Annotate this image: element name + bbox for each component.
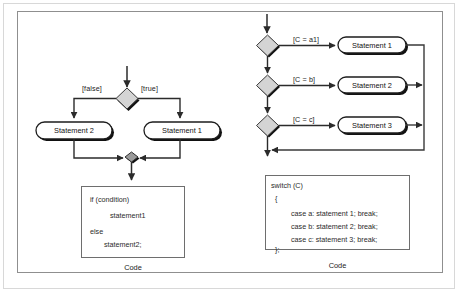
right-decision-3-diamond — [257, 115, 281, 138]
right-decision-2-diamond — [257, 75, 281, 98]
right-action-statement-3-label: Statement 3 — [338, 121, 406, 130]
right-code-caption: Code — [265, 261, 410, 270]
right-code-line-6: }; — [271, 245, 279, 254]
right-guard-a1-label: [C = a1] — [293, 35, 319, 44]
right-code-line-4: case b: statement 2; break; — [271, 222, 378, 231]
right-guard-edges — [279, 46, 336, 126]
right-guard-c-label: [C = c] — [293, 115, 315, 124]
right-decision-1-diamond — [257, 35, 281, 58]
right-action-statement-2-label: Statement 2 — [338, 81, 406, 90]
right-code-line-1: switch (C) — [271, 181, 303, 190]
right-code-line-5: case c: statement 3; break; — [271, 235, 377, 244]
right-guard-b-label: [C = b] — [293, 75, 315, 84]
figure-canvas: [false] [true] Statement 2 Statement 1 i… — [0, 0, 459, 293]
right-code-line-3: case a: statement 1; break; — [271, 209, 378, 218]
right-code-line-2: { — [271, 194, 277, 203]
right-action-statement-1-label: Statement 1 — [338, 41, 406, 50]
